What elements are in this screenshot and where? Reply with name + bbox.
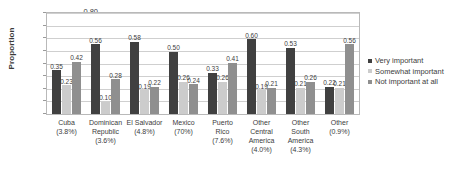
bar-group: 0.600.190.21 [242, 13, 281, 114]
x-axis-label-line: South [281, 127, 320, 136]
x-axis-label-line: Other [242, 118, 281, 127]
x-axis-label: DominicanRepublic(3.6%) [86, 118, 125, 154]
bar[interactable]: 0.56 [91, 44, 100, 114]
bar-slot: 0.35 [52, 13, 61, 114]
bar[interactable]: 0.26 [179, 82, 188, 115]
bar-slot: 0.19 [257, 13, 266, 114]
bar[interactable]: 0.41 [228, 63, 237, 114]
x-axis-label-line: (0.9%) [320, 127, 359, 136]
x-axis-label: OtherSouthAmerica(4.3%) [281, 118, 320, 154]
x-axis-label-line: Cuba [47, 118, 86, 127]
bar-slot: 0.33 [208, 13, 217, 114]
bar-slot: 0.28 [111, 13, 120, 114]
bar-slot: 0.42 [72, 13, 81, 114]
x-axis-label-line: Republic [86, 127, 125, 136]
x-axis-label-line: Other [320, 118, 359, 127]
legend-label: Somewhat important [375, 68, 444, 76]
legend-label: Not important at all [375, 78, 438, 86]
bar-value-label: 0.24 [187, 78, 200, 85]
legend-label: Very important [375, 57, 423, 65]
bar-slot: 0.26 [306, 13, 315, 114]
bar-value-label: 0.28 [109, 73, 122, 80]
x-axis-label-line: (3.6%) [86, 136, 125, 145]
bar-chart: Proportion 0.800.700.600.500.400.300.200… [0, 0, 461, 174]
bar-value-label: 0.41 [226, 56, 239, 63]
bar-value-label: 0.35 [50, 64, 63, 71]
x-axis-label: Other(0.9%) [320, 118, 359, 154]
x-axis-label-line: America [281, 136, 320, 145]
bar[interactable]: 0.26 [218, 82, 227, 115]
legend-swatch-icon [368, 59, 372, 63]
legend-swatch-icon [368, 80, 372, 84]
bar-group: 0.560.100.28 [86, 13, 125, 114]
bar-slot: 0.22 [325, 13, 334, 114]
bar[interactable]: 0.10 [101, 102, 110, 115]
bar[interactable]: 0.22 [150, 87, 159, 115]
bar[interactable]: 0.21 [296, 88, 305, 114]
legend-item[interactable]: Very important [368, 57, 444, 65]
bar-slot: 0.22 [150, 13, 159, 114]
bar-value-label: 0.53 [284, 41, 297, 48]
legend-item[interactable]: Somewhat important [368, 68, 444, 76]
bar[interactable]: 0.56 [345, 44, 354, 114]
x-axis-label-line: (3.8%) [47, 127, 86, 136]
bar[interactable]: 0.24 [189, 84, 198, 114]
bar[interactable]: 0.58 [130, 42, 139, 115]
bar-slot: 0.24 [189, 13, 198, 114]
bar-value-label: 0.56 [343, 38, 356, 45]
x-axis-label-line: Rico [203, 127, 242, 136]
x-axis-label-line: (4.3%) [281, 145, 320, 154]
bar-value-label: 0.26 [304, 75, 317, 82]
bar-group: 0.330.260.41 [203, 13, 242, 114]
x-axis-label: PuertoRico(7.6%) [203, 118, 242, 154]
bar-slot: 0.21 [335, 13, 344, 114]
bar-value-label: 0.21 [333, 81, 346, 88]
bar-group: 0.530.210.26 [281, 13, 320, 114]
legend-item[interactable]: Not important at all [368, 78, 444, 86]
bar-value-label: 0.42 [70, 55, 83, 62]
bar-value-label: 0.26 [216, 75, 229, 82]
bar[interactable]: 0.19 [140, 90, 149, 114]
x-axis-label-line: Central [242, 127, 281, 136]
bar-group: 0.500.260.24 [164, 13, 203, 114]
bar-value-label: 0.33 [206, 66, 219, 73]
bar-slot: 0.26 [179, 13, 188, 114]
bar[interactable]: 0.22 [325, 87, 334, 115]
bar-slot: 0.53 [286, 13, 295, 114]
bar-value-label: 0.56 [89, 38, 102, 45]
legend-swatch-icon [368, 69, 372, 73]
x-axis-label-line: Dominican [86, 118, 125, 127]
x-axis-label-line: El Salvador [125, 118, 164, 127]
bar-slot: 0.56 [345, 13, 354, 114]
bar[interactable]: 0.23 [62, 85, 71, 114]
x-axis-label-line: (70%) [164, 127, 203, 136]
bar-slot: 0.19 [140, 13, 149, 114]
bar[interactable]: 0.21 [335, 88, 344, 114]
bar[interactable]: 0.26 [306, 82, 315, 115]
x-axis-label-line: (4.8%) [125, 127, 164, 136]
x-axis-label: Mexico(70%) [164, 118, 203, 154]
x-axis-label-line: Puerto [203, 118, 242, 127]
x-axis-label: OtherCentralAmerica(4.0%) [242, 118, 281, 154]
bar[interactable]: 0.28 [111, 79, 120, 114]
y-axis-title: Proportion [7, 14, 16, 84]
x-axis-labels: Cuba(3.8%)DominicanRepublic(3.6%)El Salv… [47, 118, 359, 154]
bar[interactable]: 0.50 [169, 52, 178, 115]
bar-value-label: 0.23 [60, 79, 73, 86]
x-axis-label-line: (4.0%) [242, 145, 281, 154]
x-axis-label-line: Mexico [164, 118, 203, 127]
bar-value-label: 0.22 [148, 80, 161, 87]
x-axis-label: El Salvador(4.8%) [125, 118, 164, 154]
bar-slot: 0.10 [101, 13, 110, 114]
bar[interactable]: 0.42 [72, 62, 81, 115]
bar-value-label: 0.60 [245, 33, 258, 40]
bar-slot: 0.50 [169, 13, 178, 114]
bar-slot: 0.60 [247, 13, 256, 114]
bar-slot: 0.23 [62, 13, 71, 114]
x-axis-label: Cuba(3.8%) [47, 118, 86, 154]
bar[interactable]: 0.60 [247, 39, 256, 114]
bar[interactable]: 0.19 [257, 90, 266, 114]
bar-groups: 0.350.230.420.560.100.280.580.190.220.50… [47, 13, 359, 114]
x-axis-label-line: America [242, 136, 281, 145]
bar[interactable]: 0.21 [267, 88, 276, 114]
